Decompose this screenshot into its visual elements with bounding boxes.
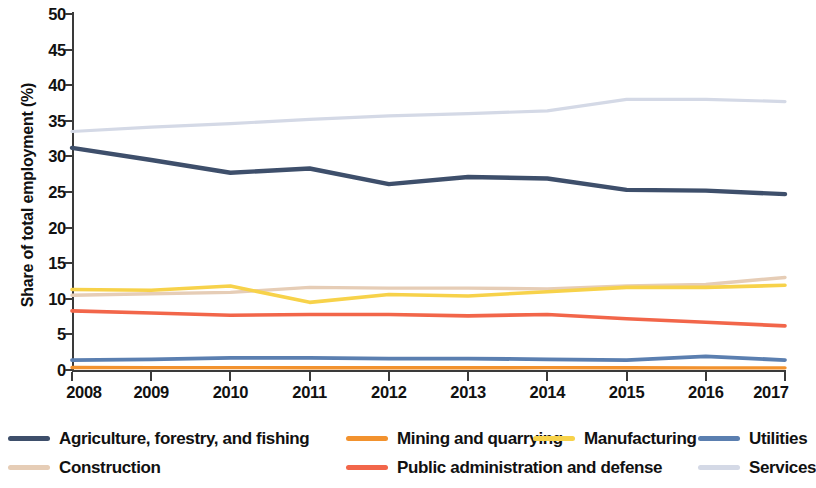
plot-area: 50454035302520151050	[72, 14, 785, 370]
legend-color-swatch	[346, 465, 388, 470]
x-tick-mark	[229, 372, 231, 381]
chart-legend: Agriculture, forestry, and fishingMining…	[0, 424, 799, 486]
y-axis-title: Share of total employment (%)	[19, 75, 37, 315]
legend-item-label: Agriculture, forestry, and fishing	[59, 430, 309, 447]
y-tick-mark	[65, 13, 72, 15]
y-tick-mark	[65, 49, 72, 51]
x-tick-mark	[467, 372, 469, 381]
series-line	[72, 148, 785, 194]
legend-item[interactable]: Construction	[8, 459, 161, 476]
y-tick-label: 35	[48, 111, 66, 130]
x-tick-label: 2017	[753, 383, 789, 402]
legend-color-swatch	[533, 436, 575, 441]
y-tick-mark	[65, 155, 72, 157]
series-lines	[72, 14, 785, 370]
y-tick-mark	[65, 369, 72, 371]
y-tick-mark	[65, 333, 72, 335]
series-line	[72, 356, 785, 360]
legend-item[interactable]: Public administration and defense	[346, 459, 662, 476]
series-line	[72, 99, 785, 131]
legend-item-label: Construction	[59, 459, 161, 476]
y-tick-label: 25	[48, 183, 66, 202]
y-tick-label: 15	[48, 254, 66, 273]
y-tick-label: 10	[48, 289, 66, 308]
legend-color-swatch	[8, 465, 50, 470]
legend-item-label: Utilities	[749, 430, 807, 447]
x-tick-mark	[626, 372, 628, 381]
y-tick-label: 30	[48, 147, 66, 166]
x-tick-label: 2016	[688, 383, 724, 402]
x-tick-mark	[784, 372, 786, 381]
legend-row-secondary: ConstructionPublic administration and de…	[8, 453, 793, 481]
legend-color-swatch	[346, 436, 388, 441]
x-tick-label: 2012	[371, 383, 407, 402]
x-tick-mark	[705, 372, 707, 381]
x-axis-ticks: 2008200920102011201220132014201520162017	[72, 372, 786, 402]
x-tick-mark	[150, 372, 152, 381]
legend-color-swatch	[698, 465, 740, 470]
x-tick-label: 2014	[530, 383, 566, 402]
legend-row-primary: Agriculture, forestry, and fishingMining…	[8, 424, 793, 452]
y-tick-mark	[65, 120, 72, 122]
series-line	[72, 311, 785, 326]
x-tick-label: 2009	[133, 383, 169, 402]
x-tick-mark	[309, 372, 311, 381]
y-tick-label: 20	[48, 218, 66, 237]
y-tick-mark	[65, 298, 72, 300]
legend-item[interactable]: Agriculture, forestry, and fishing	[8, 430, 309, 447]
x-tick-label: 2011	[292, 383, 327, 402]
legend-color-swatch	[698, 436, 740, 441]
x-tick-label: 2015	[609, 383, 645, 402]
y-tick-mark	[65, 84, 72, 86]
y-tick-label: 45	[48, 40, 66, 59]
legend-item[interactable]: Manufacturing	[533, 430, 697, 447]
y-tick-label: 40	[48, 76, 66, 95]
x-tick-label: 2013	[450, 383, 486, 402]
legend-item[interactable]: Services	[698, 459, 816, 476]
x-tick-mark	[388, 372, 390, 381]
x-tick-mark	[546, 372, 548, 381]
y-tick-label: 50	[48, 5, 66, 24]
legend-item[interactable]: Mining and quarrying	[346, 430, 563, 447]
x-tick-mark	[71, 372, 73, 381]
legend-item-label: Manufacturing	[584, 430, 697, 447]
y-tick-mark	[65, 191, 72, 193]
x-tick-label: 2008	[66, 383, 102, 402]
x-tick-label: 2010	[213, 383, 249, 402]
legend-item-label: Services	[749, 459, 816, 476]
legend-item-label: Public administration and defense	[397, 459, 662, 476]
legend-item[interactable]: Utilities	[698, 430, 807, 447]
legend-color-swatch	[8, 436, 50, 441]
y-tick-mark	[65, 262, 72, 264]
y-tick-mark	[65, 227, 72, 229]
